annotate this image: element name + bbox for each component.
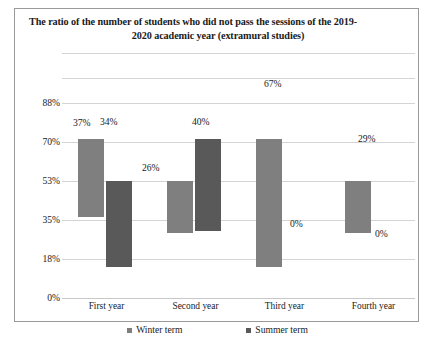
- bar-first-year-summer[interactable]: [106, 181, 132, 267]
- legend-item-summer-term[interactable]: Summer term: [246, 324, 308, 335]
- legend-item-winter-term[interactable]: Winter term: [127, 324, 182, 335]
- value-label-fourth-year-winter: 29%: [358, 134, 376, 144]
- value-label-fourth-year-summer: 0%: [375, 229, 388, 239]
- y-tick-70: 70%: [16, 137, 60, 147]
- bar-first-year-winter[interactable]: [78, 139, 104, 217]
- gridline-baseline: [62, 298, 415, 299]
- gridline-1: [62, 78, 415, 79]
- legend-swatch-icon-summer: [246, 328, 251, 333]
- y-axis: 0% 18% 35% 53% 70% 88%: [15, 53, 60, 298]
- y-tick-53: 53%: [16, 176, 60, 186]
- legend-label-winter-term: Winter term: [136, 324, 182, 335]
- category-label-second-year: Second year: [151, 301, 240, 312]
- bar-third-year-winter[interactable]: [256, 139, 282, 267]
- value-label-third-year-winter: 67%: [264, 79, 282, 89]
- category-label-fourth-year: Fourth year: [329, 301, 418, 312]
- value-label-first-year-winter: 37%: [73, 118, 91, 128]
- y-tick-88: 88%: [16, 98, 60, 108]
- chart-title: The ratio of the number of students who …: [27, 15, 409, 42]
- value-label-second-year-summer: 40%: [192, 117, 210, 127]
- y-tick-0: 0%: [16, 293, 60, 303]
- gridline-top: [62, 53, 415, 54]
- category-label-third-year: Third year: [240, 301, 329, 312]
- chart-title-line-2: 2020 academic year (extramural studies): [27, 29, 409, 43]
- gridline-88: [62, 103, 415, 104]
- value-label-first-year-summer: 34%: [100, 117, 118, 127]
- legend-label-summer-term: Summer term: [255, 324, 308, 335]
- value-label-third-year-summer: 0%: [290, 219, 303, 229]
- bar-fourth-year-winter[interactable]: [345, 181, 371, 233]
- bar-second-year-winter[interactable]: [167, 181, 193, 233]
- legend-swatch-icon-winter: [127, 328, 132, 333]
- value-label-second-year-winter: 26%: [142, 163, 160, 173]
- y-tick-35: 35%: [16, 215, 60, 225]
- category-label-first-year: First year: [62, 301, 151, 312]
- bar-second-year-summer[interactable]: [195, 139, 221, 231]
- y-tick-18: 18%: [16, 254, 60, 264]
- chart-legend: Winter term Summer term: [15, 319, 420, 338]
- chart-title-line-1: The ratio of the number of students who …: [27, 15, 409, 29]
- plot-area: 37% 34% 26% 40% 67% 0% 29% 0%: [62, 53, 415, 298]
- chart-container: The ratio of the number of students who …: [14, 8, 419, 322]
